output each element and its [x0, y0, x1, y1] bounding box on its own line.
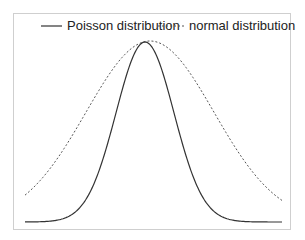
legend-normal-label: normal distribution — [189, 18, 295, 33]
poisson-distribution-curve — [25, 42, 282, 222]
distribution-chart: Poisson distribution normal distribution — [0, 0, 305, 240]
plot-frame — [14, 14, 291, 230]
normal-distribution-curve — [25, 41, 282, 200]
legend: Poisson distribution normal distribution — [41, 18, 295, 33]
